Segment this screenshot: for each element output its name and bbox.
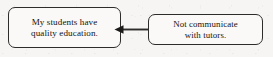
arrow-head-icon <box>115 25 124 34</box>
cause-to-effect-arrow <box>113 20 153 39</box>
effect-node[interactable]: My students have quality education. <box>8 7 121 48</box>
cause-node[interactable]: Not communicate with tutors. <box>148 14 263 45</box>
effect-node-label: My students have quality education. <box>28 17 101 39</box>
cause-node-label: Not communicate with tutors. <box>170 19 241 40</box>
flow-diagram: My students have quality education. Not … <box>0 0 273 57</box>
